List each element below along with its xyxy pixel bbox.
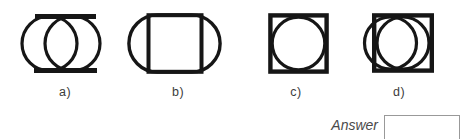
circle-in-square-icon	[268, 13, 329, 74]
answer-box[interactable]	[384, 115, 460, 139]
circle-in-square-with-offset-circle-icon	[361, 13, 435, 73]
option-d-label: d)	[383, 85, 415, 99]
figure-option-b	[127, 13, 222, 74]
square-in-oval-icon	[127, 13, 222, 74]
option-c-label: c)	[280, 85, 312, 99]
figure-option-a	[20, 13, 102, 74]
figure-option-d	[361, 13, 435, 73]
figure-option-c	[268, 13, 329, 74]
option-b-label: b)	[162, 85, 194, 99]
worksheet-question: a) b) c) d) Answer	[0, 0, 464, 139]
option-a-label: a)	[49, 85, 81, 99]
two-overlapping-circles-icon	[20, 13, 102, 74]
answer-label: Answer	[328, 117, 378, 133]
